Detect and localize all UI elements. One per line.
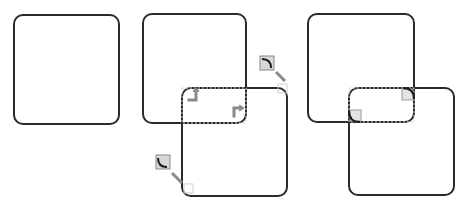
corner-arrow-icon — [234, 106, 243, 116]
corner-arrow-icon — [189, 89, 198, 100]
diagram-svg — [0, 0, 466, 207]
rounded-square-back — [143, 14, 246, 123]
stage-rounded-intersection — [308, 14, 454, 195]
diagram-canvas — [0, 0, 466, 207]
rounded-square-front — [182, 88, 287, 196]
stage-overlap-with-markers — [143, 14, 287, 196]
rounded-square-front — [349, 88, 454, 195]
stage-single-square — [14, 15, 119, 124]
corner-rounding-callout-icon — [156, 155, 193, 193]
intersection-guide — [182, 88, 246, 123]
rounded-square — [14, 15, 119, 124]
rounded-corner-marker-icon — [349, 110, 361, 122]
rounded-square-back — [308, 14, 414, 122]
rounded-corner-marker-icon — [402, 88, 414, 100]
